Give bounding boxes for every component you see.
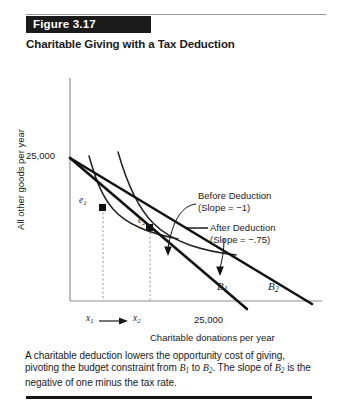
annotation-before-deduction-line2: (Slope = −1) bbox=[198, 202, 271, 214]
point-marker-e2 bbox=[146, 224, 153, 231]
x-shift-arrow-icon bbox=[99, 317, 129, 325]
figure-container: Figure 3.17 Charitable Giving with a Tax… bbox=[0, 0, 338, 408]
y-tick-label-25000: 25,000 bbox=[26, 150, 55, 161]
budget-line-label-b2: B2 bbox=[268, 280, 279, 294]
figure-number-label: Figure 3.17 bbox=[33, 18, 96, 31]
x-tick-label-x2: x2 bbox=[133, 313, 141, 324]
caption-line-2a: pivoting the budget constraint from bbox=[25, 362, 179, 373]
annotation-after-deduction-line2: (Slope = −.75) bbox=[210, 234, 275, 246]
caption-b2-second: B2 bbox=[275, 362, 285, 373]
leader-arrowhead-after-deduction bbox=[216, 267, 224, 277]
chart-svg bbox=[0, 56, 338, 336]
point-label-e2: e2 bbox=[138, 215, 146, 226]
leader-arrowhead-before-deduction bbox=[164, 247, 172, 257]
annotation-before-deduction-line1: Before Deduction bbox=[198, 190, 271, 202]
point-marker-e1 bbox=[99, 204, 106, 211]
figure-title: Charitable Giving with a Tax Deduction bbox=[26, 38, 235, 50]
budget-line-label-b1: B1 bbox=[217, 280, 228, 294]
x-tick-label-25000: 25,000 bbox=[194, 314, 223, 325]
x-axis-title: Charitable donations per year bbox=[150, 332, 275, 343]
x-tick-label-x1: e1x1 bbox=[86, 313, 94, 324]
annotation-before-deduction: Before Deduction (Slope = −1) bbox=[198, 190, 271, 213]
figure-caption: A charitable deduction lowers the opport… bbox=[25, 350, 317, 388]
top-divider bbox=[26, 14, 326, 15]
annotation-after-deduction: After Deduction (Slope = −.75) bbox=[210, 222, 275, 245]
caption-line-2c: . The slope of bbox=[212, 362, 274, 373]
chart-plot-area: All other goods per year Charitable dona… bbox=[0, 56, 338, 336]
caption-b2: B2 bbox=[203, 362, 213, 373]
caption-line-2b: to bbox=[189, 362, 203, 373]
figure-number-band: Figure 3.17 bbox=[26, 16, 151, 33]
annotation-after-deduction-line1: After Deduction bbox=[210, 222, 275, 234]
point-label-e1: e1 bbox=[79, 195, 87, 206]
y-axis-title: All other goods per year bbox=[15, 120, 26, 240]
bottom-divider bbox=[26, 396, 312, 399]
caption-b1: B1 bbox=[179, 362, 189, 373]
caption-line-1: A charitable deduction lowers the opport… bbox=[25, 350, 285, 361]
